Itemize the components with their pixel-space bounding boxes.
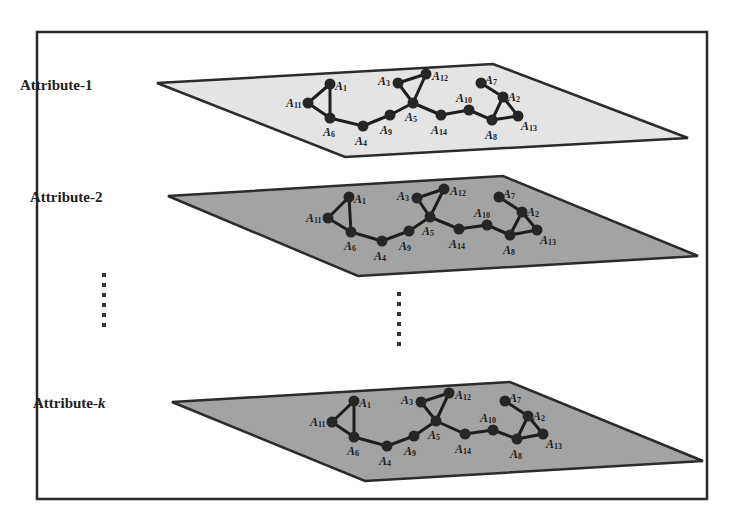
graph-node-a11	[323, 213, 334, 224]
layered-attribute-diagram: Attribute-1A1A11A6A4A9A5A3A12A14A10A8A13…	[0, 0, 746, 527]
graph-node-a12	[439, 184, 450, 195]
ellipsis-dot	[397, 302, 401, 306]
graph-node-a12	[421, 69, 432, 80]
ellipsis-dot	[397, 312, 401, 316]
attribute-layer: Attribute-2A1A11A6A4A9A5A3A12A14A10A8A13…	[30, 176, 698, 276]
graph-node-a11	[303, 98, 314, 109]
graph-node-a12	[444, 388, 455, 399]
graph-node-a2	[517, 207, 528, 218]
layer-label: Attribute-k	[33, 395, 106, 411]
ellipsis-dot	[397, 322, 401, 326]
layer-label: Attribute-1	[20, 77, 92, 93]
graph-node-a1	[325, 79, 336, 90]
graph-node-a6	[325, 113, 336, 124]
graph-node-a6	[346, 227, 357, 238]
graph-node-a10	[464, 105, 475, 116]
graph-node-a1	[344, 192, 355, 203]
ellipsis-dot	[397, 332, 401, 336]
graph-node-a8	[487, 115, 498, 126]
ellipsis-dot	[102, 293, 106, 297]
ellipsis-dot	[102, 273, 106, 277]
graph-node-a9	[409, 431, 420, 442]
attribute-layer: Attribute-1A1A11A6A4A9A5A3A12A14A10A8A13…	[20, 64, 688, 157]
graph-node-a8	[512, 434, 523, 445]
graph-node-a3	[393, 78, 404, 89]
ellipsis-dot	[102, 283, 106, 287]
graph-node-a4	[358, 121, 369, 132]
graph-node-a5	[408, 98, 419, 109]
graph-node-a14	[436, 110, 447, 121]
graph-node-a14	[454, 224, 465, 235]
attribute-layer: Attribute-kA1A11A6A4A9A5A3A12A14A10A8A13…	[33, 382, 703, 481]
graph-node-a11	[327, 417, 338, 428]
ellipsis-dot	[397, 342, 401, 346]
graph-node-a4	[382, 441, 393, 452]
attribute-plane	[168, 176, 698, 276]
graph-node-a9	[385, 110, 396, 121]
graph-node-a5	[425, 212, 436, 223]
graph-node-a10	[482, 220, 493, 231]
graph-node-a14	[460, 429, 471, 440]
graph-node-a4	[377, 236, 388, 247]
ellipsis-dot	[102, 303, 106, 307]
ellipsis-dot	[102, 313, 106, 317]
graph-node-a6	[349, 432, 360, 443]
graph-node-a3	[416, 397, 427, 408]
ellipsis-dot	[397, 292, 401, 296]
graph-node-a9	[404, 226, 415, 237]
ellipsis-dot	[102, 323, 106, 327]
ellipsis-dots	[102, 273, 401, 346]
attribute-layers: Attribute-1A1A11A6A4A9A5A3A12A14A10A8A13…	[20, 64, 703, 481]
graph-node-a5	[431, 416, 442, 427]
graph-node-a1	[349, 396, 360, 407]
layer-label: Attribute-2	[30, 189, 102, 205]
graph-node-a2	[523, 411, 534, 422]
graph-node-a8	[505, 230, 516, 241]
graph-node-a2	[498, 92, 509, 103]
graph-node-a10	[488, 425, 499, 436]
graph-node-a3	[412, 193, 423, 204]
